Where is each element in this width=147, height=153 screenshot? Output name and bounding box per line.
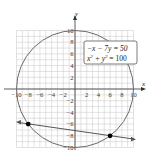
x-axis-label: x [141, 80, 146, 88]
x-tick-label: 8 [120, 91, 123, 98]
y-tick-label: 6 [70, 50, 74, 57]
x-tick-label: −6 [36, 91, 44, 98]
y-tick-label: 8 [70, 38, 73, 45]
x-tick-label: 4 [97, 91, 101, 98]
y-tick-label: −4 [67, 109, 75, 116]
y-tick-label: −2 [67, 97, 74, 104]
equation-legend: −x − 7y = 50 x2 + y2 = 100 [84, 41, 137, 64]
x-tick-label: −4 [48, 91, 56, 98]
y-tick-label: 2 [70, 74, 73, 81]
intersection-point-2 [108, 133, 113, 138]
y-tick-label: −6 [67, 120, 75, 127]
x-tick-label: −8 [25, 91, 32, 98]
x-tick-label: 6 [108, 91, 112, 98]
intersection-point-1 [26, 122, 31, 127]
x-tick-labels: −10−8−6−4−2246810 [11, 91, 136, 98]
x-tick-label: 2 [85, 91, 88, 98]
system-graph: x y −10−8−6−4−2246810 108642−2−4−6−8−10 … [0, 0, 147, 153]
equation-line-label: −x − 7y = 50 [87, 44, 128, 53]
y-tick-label: −8 [67, 132, 74, 139]
y-axis-label: y [74, 10, 79, 18]
